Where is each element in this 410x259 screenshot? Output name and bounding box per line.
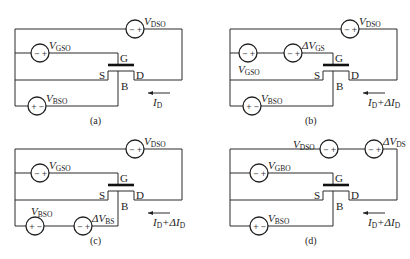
arrow-head-icon xyxy=(363,211,368,215)
panel-caption: (d) xyxy=(305,235,317,247)
panel-caption: (c) xyxy=(90,235,101,247)
body-label: B xyxy=(336,200,343,212)
source-label: VBSO xyxy=(31,205,53,219)
drain-label: D xyxy=(351,189,359,201)
polarity-right: + xyxy=(137,26,143,34)
polarity-right: + xyxy=(352,26,358,34)
polarity-left: − xyxy=(323,146,329,154)
polarity-right: + xyxy=(137,146,143,154)
polarity-left: − xyxy=(368,146,374,154)
polarity-left: + xyxy=(29,223,35,231)
arrow-head-icon xyxy=(148,211,153,215)
source-label: S xyxy=(99,189,105,201)
source-label: S xyxy=(99,69,105,81)
polarity-left: + xyxy=(253,223,259,231)
gate-label: G xyxy=(120,52,128,64)
source-label: VBSO xyxy=(46,92,68,106)
polarity-right: + xyxy=(331,146,337,154)
polarity-left: + xyxy=(246,103,252,111)
panel-caption: (b) xyxy=(305,115,317,127)
source-label: VDSO xyxy=(144,135,166,149)
polarity-left: − xyxy=(253,170,259,178)
drain-current-label: ID+ΔID xyxy=(367,216,401,230)
source-label: ΔVDS xyxy=(382,135,406,149)
drain-current-label: ID xyxy=(152,96,163,110)
polarity-left: + xyxy=(31,103,37,111)
source-label: S xyxy=(314,69,320,81)
drain-label: D xyxy=(351,69,359,81)
polarity-right: + xyxy=(85,223,91,231)
polarity-left: − xyxy=(77,223,83,231)
body-label: B xyxy=(336,80,343,92)
polarity-left: − xyxy=(34,50,40,58)
polarity-left: − xyxy=(129,146,135,154)
panel-caption: (a) xyxy=(90,115,101,127)
source-label: VBSO xyxy=(261,92,283,106)
panel-a: GSDB−+VDSO−+VGSO+−VBSOID(a) xyxy=(15,15,182,127)
circuit-diagrams: GSDB−+VDSO−+VGSO+−VBSOID(a)GSDB−+VDSO−+V… xyxy=(0,0,410,259)
polarity-left: − xyxy=(34,170,40,178)
polarity-left: − xyxy=(344,26,350,34)
drain-current-label: ID+ΔID xyxy=(152,216,186,230)
arrow-head-icon xyxy=(148,91,153,95)
polarity-right: + xyxy=(376,146,382,154)
drain-label: D xyxy=(136,189,144,201)
panel-c: GSDB−+VDSO−+VGSO+−VBSO−+ΔVBSID+ΔID(c) xyxy=(15,135,186,247)
source-label: VGSO xyxy=(49,39,71,53)
body-label: B xyxy=(121,80,128,92)
source-label: VGSO xyxy=(238,63,260,77)
polarity-right: − xyxy=(261,223,267,231)
source-label: ΔVGS xyxy=(301,39,325,53)
polarity-right: + xyxy=(261,170,267,178)
source-label: VDSO xyxy=(359,15,381,29)
source-label: ΔVBS xyxy=(91,212,114,226)
source-label: VGBO xyxy=(268,159,291,173)
polarity-right: − xyxy=(37,223,43,231)
polarity-left: − xyxy=(129,26,135,34)
mosfet-small-signal-figure: GSDB−+VDSO−+VGSO+−VBSOID(a)GSDB−+VDSO−+V… xyxy=(0,0,410,259)
source-label: S xyxy=(314,189,320,201)
source-label: VDSO xyxy=(293,138,315,152)
polarity-right: + xyxy=(42,170,48,178)
polarity-right: − xyxy=(39,103,45,111)
polarity-right: + xyxy=(250,50,256,58)
body-label: B xyxy=(121,200,128,212)
panel-d: GSDB−+VDSO−+ΔVDS−+VGBO+−VBSOID+ΔID(d) xyxy=(230,135,406,247)
gate-label: G xyxy=(335,172,343,184)
polarity-left: − xyxy=(287,50,293,58)
source-label: VBSO xyxy=(268,212,290,226)
arrow-head-icon xyxy=(363,91,368,95)
polarity-right: + xyxy=(42,50,48,58)
gate-label: G xyxy=(120,172,128,184)
drain-current-label: ID+ΔID xyxy=(367,96,401,110)
gate-label: G xyxy=(335,52,343,64)
drain-label: D xyxy=(136,69,144,81)
panel-b: GSDB−+VDSO−+VGSO−+ΔVGS+−VBSOID+ΔID(b) xyxy=(230,15,401,127)
polarity-right: − xyxy=(254,103,260,111)
polarity-right: + xyxy=(295,50,301,58)
polarity-left: − xyxy=(242,50,248,58)
source-label: VDSO xyxy=(144,15,166,29)
source-label: VGSO xyxy=(49,159,71,173)
